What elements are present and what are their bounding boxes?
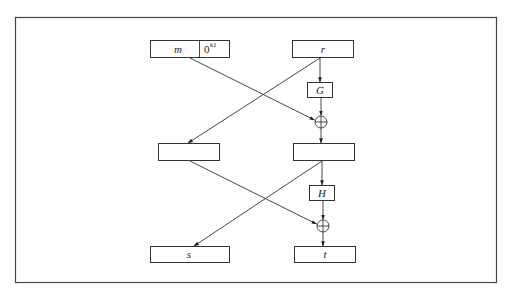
xor-operator-2 bbox=[317, 220, 329, 232]
random-box: r bbox=[293, 41, 354, 58]
left-middle-box bbox=[159, 144, 220, 161]
right-middle-box bbox=[294, 144, 355, 161]
t-output-box: t bbox=[295, 247, 356, 263]
padding-superscript: k1 bbox=[210, 41, 217, 49]
random-label: r bbox=[321, 43, 326, 55]
h-label: H bbox=[317, 187, 327, 199]
g-label: G bbox=[316, 84, 324, 96]
message-label: m bbox=[174, 43, 182, 55]
message-padding-rect bbox=[151, 41, 230, 58]
s-output-box: s bbox=[151, 247, 230, 263]
oaep-diagram: m 0 k1 r G H s t bbox=[0, 0, 512, 295]
message-padding-box: m 0 k1 bbox=[151, 41, 230, 58]
h-function-box: H bbox=[310, 186, 335, 201]
xor-operator-1 bbox=[315, 116, 327, 128]
diagram-frame bbox=[16, 18, 497, 283]
g-function-box: G bbox=[308, 83, 333, 98]
s-label: s bbox=[187, 248, 191, 260]
